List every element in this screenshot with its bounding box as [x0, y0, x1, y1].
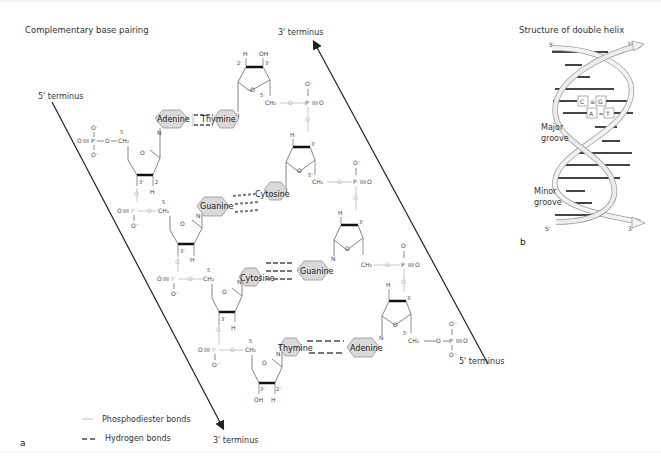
svg-text:P: P: [449, 337, 453, 344]
svg-text:H: H: [243, 50, 248, 57]
svg-text:H: H: [190, 256, 195, 263]
svg-text:5': 5': [403, 330, 408, 336]
svg-text:3': 3': [265, 60, 270, 66]
svg-text:CH₂: CH₂: [265, 99, 277, 106]
major-groove-label-line2: groove: [541, 134, 569, 143]
svg-text:O: O: [175, 258, 180, 265]
svg-text:P: P: [212, 346, 216, 353]
svg-text:O: O: [77, 137, 82, 144]
svg-text:N: N: [196, 212, 201, 219]
phosphate-group-right-1: O O⁻ P O O: [280, 80, 324, 132]
svg-text:Adenine: Adenine: [157, 115, 190, 124]
base-pair-thymine-adenine: Thymine Adenine: [277, 338, 383, 357]
svg-text:P: P: [305, 99, 309, 106]
svg-text:3': 3': [311, 141, 316, 147]
svg-text:O⁻: O⁻: [171, 290, 179, 297]
svg-text:P: P: [401, 261, 405, 268]
figure: Complementary base pairing 5' terminus 3…: [0, 0, 661, 464]
svg-text:3': 3': [407, 295, 412, 301]
svg-text:O⁻: O⁻: [449, 351, 457, 358]
strand-arrow-right: [314, 42, 488, 364]
svg-text:H: H: [271, 396, 276, 403]
base-pair-guanine-cytosine: Guanine Cytosine: [197, 182, 290, 216]
svg-text:3': 3': [359, 219, 364, 225]
base-thymine: Thymine: [200, 110, 239, 128]
minor-groove-label-line1: Minor: [534, 187, 557, 196]
svg-text:3': 3': [180, 248, 185, 254]
deoxyribose-left-4: O N 3' 2' OH H: [252, 350, 282, 403]
svg-text:O⁻: O⁻: [449, 320, 457, 327]
svg-text:O⁻: O⁻: [305, 80, 313, 87]
panel-a-label: a: [20, 438, 26, 448]
svg-text:CH₂: CH₂: [408, 337, 420, 344]
svg-text:P: P: [353, 178, 357, 185]
svg-text:5': 5': [260, 92, 265, 98]
svg-text:O: O: [262, 359, 267, 366]
svg-text:O: O: [180, 220, 185, 227]
svg-text:G: G: [598, 98, 603, 105]
phosphate-group-left-2: O O P O 5 CH₂ O⁻: [117, 188, 170, 229]
svg-text:Guanine: Guanine: [200, 202, 234, 211]
svg-text:O: O: [415, 261, 420, 268]
strand-left-5-terminus-label: 5' terminus: [38, 92, 83, 101]
svg-text:3': 3': [139, 179, 144, 185]
svg-text:P: P: [91, 137, 95, 144]
svg-text:Thymine: Thymine: [277, 344, 313, 353]
svg-text:O: O: [345, 245, 350, 252]
svg-text:2: 2: [155, 179, 158, 185]
svg-text:O: O: [463, 337, 468, 344]
legend: Phosphodiester bonds Hydrogen bonds: [82, 415, 191, 443]
svg-text:O: O: [216, 326, 221, 333]
svg-text:O: O: [353, 194, 358, 201]
svg-text:CH₂: CH₂: [203, 275, 215, 282]
svg-text:CH₂: CH₂: [361, 261, 373, 268]
svg-text:2': 2': [276, 386, 281, 392]
svg-text:P: P: [171, 275, 175, 282]
svg-text:P: P: [131, 207, 135, 214]
svg-text:O: O: [319, 99, 324, 106]
svg-text:3': 3': [221, 316, 226, 322]
strand-right-5-terminus-label: 5' terminus: [459, 357, 504, 366]
deoxyribose-right-2: H 3' O N 5' CH₂: [283, 131, 324, 193]
svg-text:H: H: [290, 131, 295, 138]
deoxyribose-right-1: H OH 2' 3' O N 5' CH₂: [235, 50, 277, 119]
svg-text:H: H: [386, 281, 391, 288]
base-pair-cytosine-guanine: Cytosine Guanine: [239, 261, 334, 286]
strand-left-3-terminus-label: 3' terminus: [213, 436, 258, 445]
strand-right-3-terminus-label: 3' terminus: [278, 28, 323, 37]
helix-bottom-5-label: 5': [545, 225, 551, 232]
base-pair-adenine-thymine: Adenine Thymine: [155, 110, 239, 128]
helix-pair-cg: C ≡ G: [578, 96, 606, 106]
svg-text:O: O: [134, 190, 139, 197]
minor-groove-label-line2: groove: [534, 198, 562, 207]
base-adenine-2: Adenine: [347, 338, 383, 357]
svg-text:O: O: [147, 207, 152, 214]
svg-text:O: O: [385, 261, 390, 268]
svg-text:O: O: [105, 137, 110, 144]
svg-text:N: N: [157, 129, 162, 136]
svg-text:O: O: [305, 116, 310, 123]
panel-a-title: Complementary base pairing: [25, 25, 149, 35]
phosphate-group-left-4: O O P O 5 CH₂ O⁻: [198, 325, 257, 368]
svg-text:Guanine: Guanine: [300, 267, 334, 276]
svg-text:O: O: [436, 337, 441, 344]
svg-text:O: O: [297, 167, 302, 174]
phosphate-group-right-2: O O⁻ P O O: [327, 159, 372, 210]
svg-text:O: O: [140, 149, 145, 156]
base-adenine: Adenine: [155, 110, 190, 128]
svg-text:O: O: [117, 207, 122, 214]
svg-text:2': 2': [237, 60, 242, 66]
svg-text:O: O: [230, 346, 235, 353]
svg-text:Adenine: Adenine: [350, 344, 383, 353]
svg-text:OH: OH: [259, 50, 268, 57]
svg-text:O⁻: O⁻: [353, 159, 361, 166]
svg-text:O: O: [250, 86, 255, 93]
svg-text:Phosphodiester bonds: Phosphodiester bonds: [102, 415, 191, 424]
svg-text:O⁻: O⁻: [91, 151, 99, 158]
svg-text:O: O: [401, 278, 406, 285]
svg-text:5: 5: [249, 338, 252, 344]
svg-text:H: H: [231, 324, 236, 331]
deoxyribose-left-2: O N 3' H: [170, 212, 202, 263]
svg-text:N: N: [379, 334, 384, 341]
deoxyribose-left-3: O N 3' H: [212, 278, 242, 331]
